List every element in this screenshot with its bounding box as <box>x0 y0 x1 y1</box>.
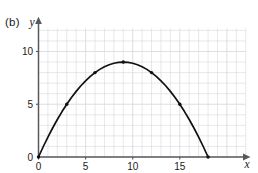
parabola-plot: 0510150510 x y <box>0 0 258 173</box>
data-point-marker <box>65 103 68 106</box>
x-tick-label: 10 <box>127 161 139 172</box>
figure-screenshot: (b) 0510150510 x y <box>0 0 258 173</box>
x-axis-label: x <box>243 158 250 170</box>
x-tick-label: 0 <box>36 161 42 172</box>
data-point-marker <box>122 60 125 63</box>
y-axis-label: y <box>28 16 35 29</box>
y-tick-label: 10 <box>22 46 34 57</box>
x-tick-label: 15 <box>174 161 186 172</box>
y-tick-label: 5 <box>27 99 33 110</box>
data-point-marker <box>178 103 181 106</box>
data-point-marker <box>37 155 40 158</box>
data-point-marker <box>150 71 153 74</box>
grid-lines <box>39 28 246 157</box>
y-tick-label: 0 <box>27 152 33 163</box>
x-tick-label: 5 <box>83 161 89 172</box>
data-point-marker <box>206 155 209 158</box>
axes <box>35 17 250 161</box>
data-point-marker <box>93 71 96 74</box>
